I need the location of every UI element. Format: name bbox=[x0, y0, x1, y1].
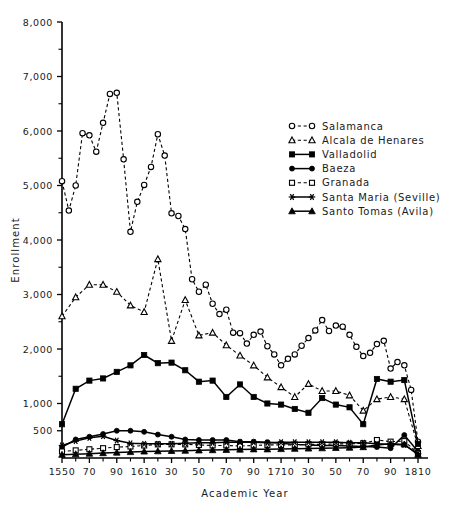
y-tick-label: 8,000 bbox=[23, 17, 53, 28]
data-point-circle-open bbox=[285, 356, 290, 361]
data-point-square-open bbox=[290, 180, 295, 185]
x-tick-label: 50 bbox=[329, 466, 342, 477]
data-point-circle-open bbox=[388, 366, 393, 371]
data-point-square-fill bbox=[309, 152, 314, 157]
data-point-square-fill bbox=[347, 405, 352, 410]
data-point-circle-open bbox=[155, 132, 160, 137]
data-point-circle-fill bbox=[310, 166, 315, 171]
data-point-circle-open bbox=[367, 350, 372, 355]
data-point-circle-open bbox=[319, 317, 324, 322]
data-point-square-fill bbox=[251, 394, 256, 399]
data-point-circle-open bbox=[169, 211, 174, 216]
data-point-square-fill bbox=[333, 402, 338, 407]
data-point-circle-open bbox=[141, 182, 146, 187]
x-tick-label: 90 bbox=[384, 466, 397, 477]
data-point-circle-open bbox=[381, 338, 386, 343]
data-point-circle-fill bbox=[155, 432, 160, 437]
data-point-circle-fill bbox=[128, 428, 133, 433]
data-point-square-open bbox=[310, 180, 315, 185]
legend-label: Santo Tomas (Avila) bbox=[322, 206, 434, 217]
data-point-square-fill bbox=[196, 379, 201, 384]
data-point-circle-open bbox=[309, 123, 314, 128]
x-tick-label: 1710 bbox=[268, 466, 295, 477]
data-point-square-fill bbox=[114, 369, 119, 374]
data-point-circle-open bbox=[333, 323, 338, 328]
data-point-square-fill bbox=[278, 402, 283, 407]
data-point-square-fill bbox=[73, 386, 78, 391]
data-point-square-fill bbox=[224, 394, 229, 399]
y-tick-label: 3,000 bbox=[23, 289, 53, 300]
data-point-circle-open bbox=[73, 183, 78, 188]
enrollment-line-chart: 8,0007,0006,0005,0004,0003,0002,0001,000… bbox=[0, 0, 460, 508]
x-tick-label: 30 bbox=[302, 466, 315, 477]
data-point-square-fill bbox=[306, 410, 311, 415]
data-point-square-fill bbox=[265, 401, 270, 406]
x-tick-label: 90 bbox=[110, 466, 123, 477]
data-point-square-fill bbox=[289, 152, 294, 157]
data-point-circle-open bbox=[80, 130, 85, 135]
data-point-circle-open bbox=[176, 213, 181, 218]
data-point-circle-open bbox=[203, 282, 208, 287]
data-point-circle-open bbox=[408, 387, 413, 392]
data-point-circle-open bbox=[217, 311, 222, 316]
data-point-square-fill bbox=[142, 352, 147, 357]
legend-label: Salamanca bbox=[322, 121, 384, 132]
data-point-square-fill bbox=[388, 379, 393, 384]
data-point-square-fill bbox=[59, 422, 64, 427]
x-tick-label: 1810 bbox=[405, 466, 432, 477]
y-tick-label: 1,000 bbox=[23, 398, 53, 409]
data-point-circle-fill bbox=[114, 428, 119, 433]
legend-label: Valladolid bbox=[322, 149, 377, 160]
data-point-square-fill bbox=[415, 441, 420, 446]
data-point-circle-open bbox=[66, 208, 71, 213]
data-point-circle-open bbox=[210, 301, 215, 306]
data-point-circle-open bbox=[135, 199, 140, 204]
data-point-square-fill bbox=[237, 382, 242, 387]
data-point-circle-fill bbox=[142, 429, 147, 434]
data-point-circle-open bbox=[258, 329, 263, 334]
data-point-circle-open bbox=[395, 359, 400, 364]
data-point-square-fill bbox=[292, 406, 297, 411]
data-point-circle-open bbox=[299, 343, 304, 348]
data-point-square-fill bbox=[402, 377, 407, 382]
data-point-circle-open bbox=[121, 157, 126, 162]
data-point-square-fill bbox=[210, 378, 215, 383]
x-tick-label: 90 bbox=[247, 466, 260, 477]
data-point-circle-open bbox=[114, 90, 119, 95]
x-tick-label: 30 bbox=[165, 466, 178, 477]
data-point-circle-open bbox=[361, 353, 366, 358]
data-point-circle-open bbox=[128, 229, 133, 234]
data-point-circle-open bbox=[244, 341, 249, 346]
data-point-circle-open bbox=[94, 149, 99, 154]
data-point-circle-open bbox=[326, 328, 331, 333]
data-point-circle-open bbox=[251, 332, 256, 337]
y-tick-label: 7,000 bbox=[23, 71, 53, 82]
data-point-square-fill bbox=[320, 395, 325, 400]
data-point-circle-open bbox=[196, 289, 201, 294]
x-tick-label: 1550 bbox=[49, 466, 76, 477]
data-point-circle-open bbox=[340, 324, 345, 329]
data-point-circle-open bbox=[87, 133, 92, 138]
data-point-square-fill bbox=[169, 360, 174, 365]
data-point-square-fill bbox=[361, 422, 366, 427]
x-axis-title: Academic Year bbox=[201, 488, 288, 499]
data-point-circle-open bbox=[162, 153, 167, 158]
data-point-circle-fill bbox=[290, 166, 295, 171]
x-tick-label: 70 bbox=[220, 466, 233, 477]
data-point-circle-open bbox=[278, 363, 283, 368]
data-point-circle-open bbox=[289, 123, 294, 128]
data-point-circle-fill bbox=[402, 433, 407, 438]
data-point-circle-open bbox=[272, 352, 277, 357]
data-point-circle-fill bbox=[169, 434, 174, 439]
data-point-circle-open bbox=[59, 178, 64, 183]
y-tick-label: 5,000 bbox=[23, 180, 53, 191]
data-point-square-fill bbox=[128, 363, 133, 368]
data-point-circle-open bbox=[265, 344, 270, 349]
data-point-square-fill bbox=[100, 376, 105, 381]
legend-label: Alcala de Henares bbox=[322, 135, 424, 146]
x-tick-label: 50 bbox=[192, 466, 205, 477]
chart-figure: 8,0007,0006,0005,0004,0003,0002,0001,000… bbox=[0, 0, 460, 508]
y-tick-label: 6,000 bbox=[23, 126, 53, 137]
data-point-circle-open bbox=[100, 120, 105, 125]
x-tick-label: 70 bbox=[83, 466, 96, 477]
